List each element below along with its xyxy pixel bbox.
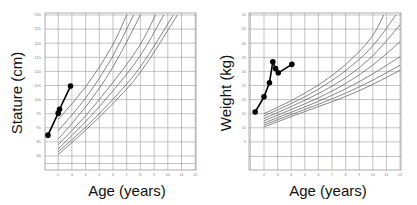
x-tick-label: 3 (276, 172, 279, 177)
x-tick-label: 3 (71, 172, 74, 177)
x-tick-label: 4 (84, 172, 87, 177)
patient-weight-point (270, 59, 276, 65)
stature-chart: 2345678910111280859095100105110115120125… (0, 0, 210, 205)
x-tick-label: 11 (384, 172, 389, 177)
x-tick-label: 5 (98, 172, 101, 177)
y-tick-label: 35 (242, 55, 247, 60)
y-axis-title: Stature (cm) (8, 52, 25, 135)
x-axis-title: Age (years) (289, 182, 367, 199)
stature-chart-svg: 2345678910111280859095100105110115120125… (0, 0, 210, 205)
y-tick-label: 120 (34, 41, 41, 46)
x-tick-label: 10 (371, 172, 376, 177)
y-tick-label: 45 (242, 26, 247, 31)
y-tick-label: 80 (37, 153, 42, 158)
grid (249, 13, 401, 170)
x-tick-label: 2 (263, 172, 266, 177)
y-tick-label: 50 (242, 12, 247, 17)
patient-weight-point (267, 80, 273, 86)
y-tick-label: 5 (244, 139, 247, 144)
x-tick-label: 12 (398, 172, 403, 177)
y-tick-label: 95 (37, 111, 42, 116)
x-tick-label: 7 (331, 172, 334, 177)
data-series (252, 59, 294, 115)
y-tick-label: 10 (242, 125, 247, 130)
y-tick-label: 115 (35, 55, 42, 60)
y-axis-title: Weight (kg) (217, 55, 234, 131)
x-tick-label: 10 (166, 172, 171, 177)
reference-curve-4 (58, 15, 155, 145)
x-tick-label: 6 (317, 172, 320, 177)
y-tick-label: 30 (242, 69, 247, 74)
y-tick-label: 125 (34, 26, 41, 31)
x-tick-label: 11 (179, 172, 184, 177)
reference-curve-1 (58, 15, 127, 119)
reference-curves (58, 15, 177, 155)
y-tick-label: 15 (242, 111, 247, 116)
x-tick-label: 5 (304, 172, 307, 177)
y-tick-label: 90 (37, 125, 42, 130)
patient-stature-point (57, 106, 63, 112)
patient-weight-point (289, 62, 295, 68)
x-axis-title: Age (years) (88, 182, 166, 199)
x-tick-label: 8 (139, 172, 142, 177)
y-tick-label: 100 (34, 97, 41, 102)
patient-stature-point (45, 132, 51, 138)
y-tick-label: 40 (242, 41, 247, 46)
y-tick-label: 20 (242, 97, 247, 102)
x-tick-label: 2 (57, 172, 60, 177)
weight-chart-svg: 234567891011125101520253035404550 Age (y… (207, 0, 417, 205)
x-tick-label: 7 (126, 172, 129, 177)
y-tick-label: 110 (35, 69, 42, 74)
x-tick-label: 8 (344, 172, 347, 177)
tick-labels: 2345678910111280859095100105110115120125… (34, 12, 198, 177)
x-tick-label: 12 (193, 172, 198, 177)
reference-curve-6 (58, 15, 173, 152)
x-tick-label: 9 (153, 172, 156, 177)
patient-weight-point (261, 94, 267, 100)
patient-weight-point (252, 109, 258, 115)
patient-weight-point (275, 70, 281, 76)
y-tick-label: 105 (34, 83, 41, 88)
x-tick-label: 9 (358, 172, 361, 177)
weight-chart: 234567891011125101520253035404550 Age (y… (207, 0, 417, 205)
y-tick-label: 130 (34, 12, 41, 17)
plot-frame (249, 13, 401, 170)
y-tick-label: 85 (37, 139, 42, 144)
patient-stature-point (68, 83, 74, 89)
y-tick-label: 25 (242, 83, 247, 88)
x-tick-label: 6 (112, 172, 115, 177)
x-tick-label: 4 (290, 172, 293, 177)
